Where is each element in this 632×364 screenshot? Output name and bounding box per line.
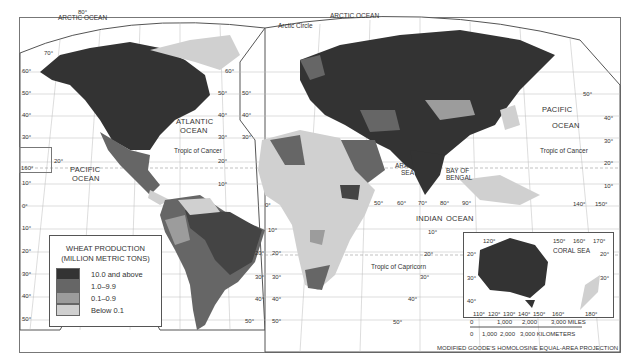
deg-0-w: 0° bbox=[22, 203, 28, 209]
label-pacific-e-1: PACIFIC bbox=[542, 105, 573, 114]
deg-lon-50: 50° bbox=[374, 200, 384, 206]
deg-aus-120: 120° bbox=[483, 238, 496, 244]
deg-0-mid: 0° bbox=[265, 202, 271, 208]
deg-aus-170: 170° bbox=[593, 238, 606, 244]
deg-20s-mid2: 20° bbox=[272, 250, 282, 256]
deg-50-e: 50° bbox=[583, 91, 593, 97]
deg-aus-180: 180° bbox=[585, 311, 598, 317]
label-arctic-ocean-w: ARCTIC OCEAN bbox=[58, 14, 107, 21]
label-tropic-capricorn: Tropic of Capricorn bbox=[371, 263, 426, 271]
deg-10-w: 10° bbox=[22, 180, 32, 186]
deg-70-w: 70° bbox=[44, 50, 54, 56]
deg-10s-w: 10° bbox=[22, 225, 32, 231]
deg-aus-160b: 160° bbox=[552, 311, 565, 317]
deg-40s-mid2: 40° bbox=[272, 296, 282, 302]
deg-20-w: 20° bbox=[54, 158, 64, 164]
deg-50s-mid2: 50° bbox=[272, 318, 282, 324]
label-pacific-w-1: PACIFIC bbox=[70, 165, 101, 174]
label-indian-2: OCEAN bbox=[446, 214, 474, 223]
label-arabian-2: SEA bbox=[401, 169, 415, 176]
legend-swatch bbox=[56, 304, 80, 316]
deg-aus-30r: 30° bbox=[600, 275, 610, 281]
deg-20s-e: 20° bbox=[424, 251, 434, 257]
deg-40-mid2: 40° bbox=[242, 112, 252, 118]
deg-lon-80: 80° bbox=[440, 200, 450, 206]
deg-50s-e: 50° bbox=[393, 319, 403, 325]
scale-km-2000: 2,000 bbox=[500, 331, 516, 337]
legend-item-1-9: 1.0–9.9 bbox=[56, 280, 161, 292]
deg-30-mid: 30° bbox=[218, 134, 228, 140]
world-map: ARCTIC OCEAN ARCTIC OCEAN Arctic Circle … bbox=[0, 0, 632, 364]
deg-80-w: 80° bbox=[78, 9, 88, 15]
label-atlantic-1: ATLANTIC bbox=[176, 117, 214, 126]
legend-swatch bbox=[56, 268, 80, 280]
label-bengal-1: BAY OF bbox=[446, 167, 469, 174]
deg-40s-mid: 40° bbox=[255, 296, 265, 302]
deg-30s-e: 30° bbox=[420, 274, 430, 280]
deg-50-mid2: 50° bbox=[242, 90, 252, 96]
deg-aus-150: 150° bbox=[553, 238, 566, 244]
legend-label: 0.1–0.9 bbox=[91, 294, 116, 303]
scale-mi-1000: 1,000 bbox=[497, 319, 513, 325]
label-arctic-circle: Arctic Circle bbox=[278, 22, 313, 29]
legend-title: WHEAT PRODUCTION (MILLION METRIC TONS) bbox=[50, 244, 161, 264]
deg-lon-90: 90° bbox=[462, 200, 472, 206]
deg-20-mid: 20° bbox=[218, 158, 228, 164]
deg-40s-w: 40° bbox=[22, 293, 32, 299]
deg-10-mid: 10° bbox=[218, 181, 228, 187]
deg-30-mid2: 30° bbox=[242, 134, 252, 140]
deg-30s-mid: 30° bbox=[255, 274, 265, 280]
deg-aus-150b: 150° bbox=[533, 311, 546, 317]
deg-40s-e: 40° bbox=[408, 296, 418, 302]
deg-40-mid: 40° bbox=[218, 112, 228, 118]
deg-aus-140: 140° bbox=[518, 311, 531, 317]
deg-40-e: 40° bbox=[604, 115, 614, 121]
deg-aus-20r: 20° bbox=[600, 251, 610, 257]
deg-aus-40: 40° bbox=[467, 298, 477, 304]
deg-30-e: 30° bbox=[604, 138, 614, 144]
legend-item-10-plus: 10.0 and above bbox=[56, 268, 161, 280]
deg-aus-130: 130° bbox=[503, 311, 516, 317]
legend-label: 1.0–9.9 bbox=[91, 282, 116, 291]
legend-label: 10.0 and above bbox=[91, 270, 143, 279]
deg-lon-150: 150° bbox=[595, 201, 608, 207]
deg-40-w: 40° bbox=[22, 112, 32, 118]
deg-aus-160: 160° bbox=[573, 238, 586, 244]
deg-60-mid: 60° bbox=[225, 68, 235, 74]
scale-km-3000: 3,000 KILOMETERS bbox=[520, 331, 575, 337]
ethiopia bbox=[340, 185, 360, 200]
deg-aus-20: 20° bbox=[467, 251, 477, 257]
legend: WHEAT PRODUCTION (MILLION METRIC TONS) 1… bbox=[49, 235, 162, 327]
deg-20s-mid: 20° bbox=[255, 250, 265, 256]
scale-mi-2000: 2,000 bbox=[522, 319, 538, 325]
deg-10s-mid: 10° bbox=[268, 227, 278, 233]
deg-60-w: 60° bbox=[22, 68, 32, 74]
legend-swatch bbox=[56, 292, 80, 304]
scale-km-1000: 1,000 bbox=[482, 331, 498, 337]
deg-50s-mid: 50° bbox=[245, 318, 255, 324]
legend-item-0-1-0-9: 0.1–0.9 bbox=[56, 292, 161, 304]
deg-aus-30: 30° bbox=[467, 275, 477, 281]
deg-lon-60: 60° bbox=[397, 200, 407, 206]
legend-title-line2: (MILLION METRIC TONS) bbox=[50, 254, 161, 264]
label-coral-sea: CORAL SEA bbox=[553, 247, 591, 254]
label-tropic-cancer-w: Tropic of Cancer bbox=[174, 147, 223, 155]
label-bengal-2: BENGAL bbox=[446, 174, 473, 181]
deg-10-e: 10° bbox=[604, 183, 614, 189]
deg-20-e: 20° bbox=[604, 160, 614, 166]
label-pacific-w-2: OCEAN bbox=[72, 174, 100, 183]
deg-aus-120b: 120° bbox=[488, 311, 501, 317]
label-tropic-cancer-e: Tropic of Cancer bbox=[540, 147, 589, 155]
scale-mi-3000: 3,000 MILES bbox=[551, 319, 586, 325]
deg-30s-mid2: 30° bbox=[272, 274, 282, 280]
legend-title-line1: WHEAT PRODUCTION bbox=[50, 244, 161, 254]
deg-30s-w: 30° bbox=[22, 271, 32, 277]
deg-50s-w: 50° bbox=[22, 316, 32, 322]
deg-10s-e: 10° bbox=[428, 229, 438, 235]
deg-lon-140: 140° bbox=[573, 201, 586, 207]
label-arabian-1: ARABIAN bbox=[395, 162, 424, 169]
label-atlantic-2: OCEAN bbox=[180, 126, 208, 135]
projection-note: MODIFIED GOODE'S HOMOLOSINE EQUAL-AREA P… bbox=[437, 345, 618, 351]
deg-20s-w: 20° bbox=[22, 248, 32, 254]
legend-item-below-0-1: Below 0.1 bbox=[56, 304, 161, 316]
